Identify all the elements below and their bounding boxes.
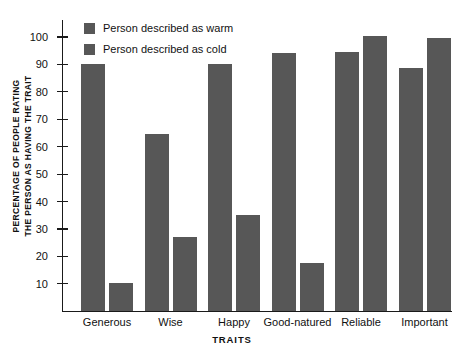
bar	[173, 237, 197, 311]
y-axis-tick-label: 100	[30, 31, 48, 43]
y-axis-tick-label: 70	[36, 113, 48, 125]
bar	[81, 64, 105, 311]
y-axis-tick-label: 80	[36, 86, 48, 98]
bar	[427, 38, 451, 311]
legend-label: Person described as warm	[103, 22, 233, 34]
y-axis-tick-label: 30	[36, 223, 48, 235]
x-axis-line	[62, 311, 452, 312]
legend-item: Person described as warm	[84, 19, 314, 37]
bar	[272, 53, 296, 311]
y-axis-tick-label: 40	[36, 196, 48, 208]
y-axis-tick: 90	[57, 64, 68, 65]
y-axis-tick-label: 90	[36, 58, 48, 70]
plot-area: 102030405060708090100 GenerousWiseHappyG…	[62, 20, 452, 312]
bar	[236, 215, 260, 311]
x-axis-category-label: Important	[401, 316, 447, 328]
bar	[208, 64, 232, 311]
y-axis-tick: 100	[57, 36, 68, 37]
x-axis-category-label: Generous	[83, 316, 131, 328]
bar	[363, 36, 387, 310]
x-axis-title: TRAITS	[0, 334, 464, 345]
legend-item: Person described as cold	[84, 40, 314, 58]
y-axis-title: PERCENTAGE OF PEOPLE RATING THE PERSON A…	[11, 75, 34, 236]
y-axis-tick: 70	[57, 119, 68, 120]
y-axis-tick-label: 10	[36, 278, 48, 290]
y-axis-tick: 30	[57, 228, 68, 229]
y-axis-title-line-2: THE PERSON AS HAVING THE TRAIT	[22, 75, 34, 236]
y-axis-tick-label: 20	[36, 250, 48, 262]
bar	[335, 52, 359, 311]
y-axis-title-container: PERCENTAGE OF PEOPLE RATING THE PERSON A…	[0, 0, 44, 312]
y-axis-tick: 10	[57, 283, 68, 284]
bar	[145, 134, 169, 311]
y-axis-tick: 60	[57, 146, 68, 147]
legend-label: Person described as cold	[103, 43, 227, 55]
chart-legend: Person described as warmPerson described…	[84, 19, 314, 61]
x-axis-category-label: Wise	[158, 316, 182, 328]
y-axis-tick-label: 50	[36, 168, 48, 180]
bar	[109, 283, 133, 310]
y-axis-tick: 80	[57, 91, 68, 92]
y-axis-title-line-1: PERCENTAGE OF PEOPLE RATING	[11, 75, 23, 236]
y-axis-tick: 40	[57, 201, 68, 202]
legend-swatch-icon	[84, 23, 95, 34]
y-axis-tick: 50	[57, 174, 68, 175]
x-axis-category-label: Good-natured	[264, 316, 332, 328]
x-axis-category-label: Happy	[218, 316, 250, 328]
x-axis-category-label: Reliable	[341, 316, 381, 328]
legend-swatch-icon	[84, 44, 95, 55]
y-axis-tick: 20	[57, 256, 68, 257]
bar	[300, 263, 324, 311]
bar-chart-figure: PERCENTAGE OF PEOPLE RATING THE PERSON A…	[0, 0, 464, 356]
bar	[399, 68, 423, 311]
y-axis-tick-label: 60	[36, 141, 48, 153]
